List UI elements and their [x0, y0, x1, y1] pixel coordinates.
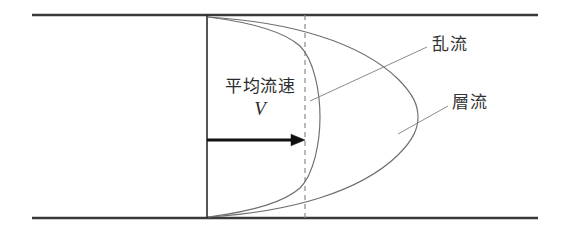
laminar-leader-line: [398, 106, 448, 134]
flow-profile-figure: 平均流速 V 乱流 層流: [0, 0, 566, 238]
mean-velocity-arrow: [207, 134, 305, 146]
mean-velocity-text: 平均流速: [212, 72, 308, 97]
mean-velocity-symbol: V: [212, 98, 308, 120]
laminar-flow-label: 層流: [452, 93, 487, 113]
turbulent-flow-label: 乱流: [432, 35, 467, 55]
mean-velocity-label: 平均流速 V: [212, 72, 308, 120]
